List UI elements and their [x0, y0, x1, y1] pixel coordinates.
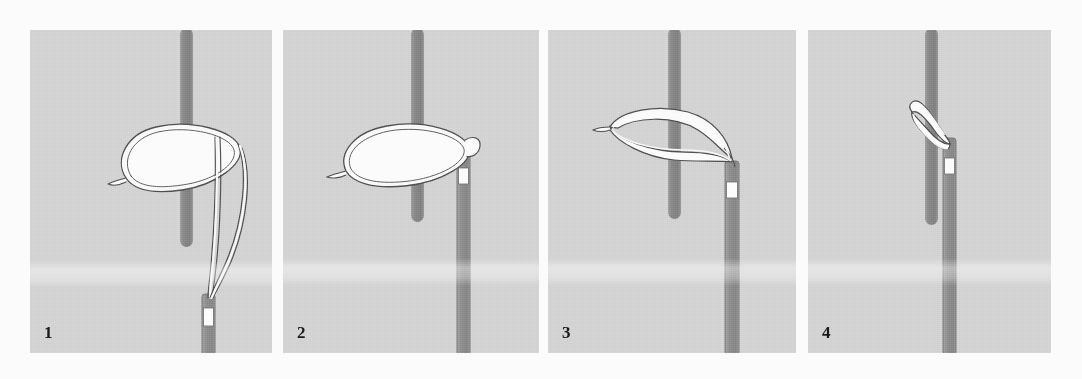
radiopaque-marker-band: [204, 308, 214, 326]
panel-1-artwork: [30, 30, 272, 353]
snare-catheter: [725, 161, 739, 353]
panel-4: 4: [808, 30, 1051, 353]
panel-3: 3: [548, 30, 796, 353]
snare-loop: [593, 108, 735, 167]
panel-label-3: 3: [562, 324, 571, 341]
snare-catheter: [943, 138, 956, 353]
guidewire-rod: [668, 30, 681, 219]
snare-catheter: [202, 294, 215, 353]
panel-4-artwork: [808, 30, 1051, 353]
panel-label-1: 1: [44, 324, 53, 341]
panel-2: 2: [283, 30, 539, 353]
snare-loop: [108, 124, 247, 298]
panel-1: 1: [30, 30, 272, 353]
panel-3-artwork: [548, 30, 796, 353]
radiopaque-marker-band: [945, 158, 955, 174]
panel-label-4: 4: [822, 324, 831, 341]
panel-label-2: 2: [297, 324, 306, 341]
radiopaque-marker-band: [459, 168, 469, 184]
snare-catheter: [457, 152, 470, 353]
radiopaque-marker-band: [727, 182, 738, 198]
panel-2-artwork: [283, 30, 539, 353]
figure-container: 1: [0, 0, 1082, 379]
